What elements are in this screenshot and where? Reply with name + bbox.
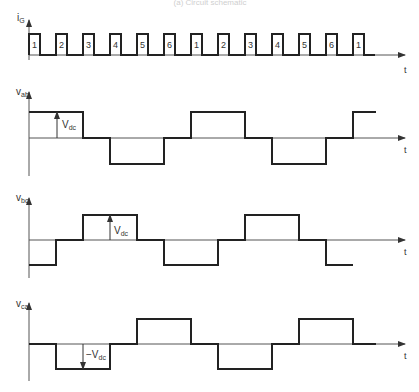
vab-axis-label: vab: [16, 86, 29, 98]
vca-axis-label: vca: [16, 298, 29, 310]
pulse-number-label: 1: [356, 40, 361, 50]
waveform-vca: vcat−Vdc: [16, 298, 407, 381]
vab-time-label: t: [404, 145, 407, 155]
vca-axis-label-sub: ca: [21, 303, 29, 310]
vbc-axis-label: vbc: [16, 192, 29, 204]
pulse-number-label: 4: [275, 40, 280, 50]
vbc-magnitude-label-sub: dc: [121, 230, 129, 237]
vab-magnitude-label: Vdc: [62, 119, 77, 131]
vca-magnitude-label-sub: dc: [99, 354, 107, 361]
pulse-number-label: 2: [59, 40, 64, 50]
vab-magnitude-label-sub: dc: [69, 124, 77, 131]
pulse-number-label: 6: [167, 40, 172, 50]
gate-pulse-trace: [29, 34, 375, 55]
pulse-number-label: 6: [329, 40, 334, 50]
pulse-number-label: 5: [140, 40, 145, 50]
waveform-diagram: (a) Circuit schematic iGt1234561234561 v…: [0, 0, 419, 392]
pulse-number-label: 1: [194, 40, 199, 50]
vbc-magnitude-label: Vdc: [114, 225, 129, 237]
vca-magnitude-label: −Vdc: [86, 349, 106, 361]
gate-time-label: t: [404, 65, 407, 75]
pulse-number-label: 4: [113, 40, 118, 50]
voltage-waveforms: vabtVdcvbctVdcvcat−Vdc: [16, 86, 407, 381]
pulse-number-label: 3: [248, 40, 253, 50]
vbc-time-label: t: [404, 247, 407, 257]
pulse-number-label: 5: [302, 40, 307, 50]
figure-caption: (a) Circuit schematic: [174, 0, 247, 7]
pulse-number-label: 3: [86, 40, 91, 50]
waveform-vab: vabtVdc: [16, 86, 407, 176]
vab-axis-label-sub: ab: [21, 91, 29, 98]
pulse-number-label: 2: [221, 40, 226, 50]
gate-axis-label: iG: [17, 12, 25, 24]
gate-signal-plot: iGt1234561234561: [17, 12, 407, 75]
pulse-number-label: 1: [32, 40, 37, 50]
vbc-axis-label-sub: bc: [21, 197, 29, 204]
waveform-vbc: vbctVdc: [16, 192, 407, 278]
gate-axis-label-sub: G: [19, 17, 24, 24]
vca-time-label: t: [404, 351, 407, 361]
